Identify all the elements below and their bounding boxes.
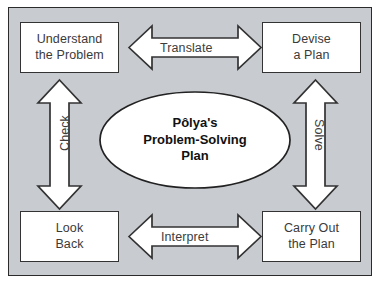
connector-label-check: Check	[58, 115, 72, 151]
node-devise-line-2: a Plan	[292, 48, 331, 63]
node-look-back[interactable]: Look Back	[20, 211, 119, 262]
node-look-back-line-2: Back	[55, 237, 83, 252]
node-carry-out-line-1: Carry Out	[284, 221, 339, 236]
node-devise-a-plan[interactable]: Devise a Plan	[262, 22, 361, 73]
node-carry-out-line-2: the Plan	[284, 237, 339, 252]
node-carry-out-the-plan[interactable]: Carry Out the Plan	[262, 211, 361, 262]
node-understand-line-1: Understand	[35, 32, 104, 47]
node-look-back-line-1: Look	[55, 221, 83, 236]
diagram-root: Pôlya's Problem-Solving Plan Understand …	[0, 0, 381, 284]
center-ellipse	[100, 92, 290, 188]
node-devise-line-1: Devise	[292, 32, 331, 47]
connector-label-translate: Translate	[160, 41, 213, 55]
node-understand-line-2: the Problem	[35, 48, 104, 63]
connector-label-interpret: Interpret	[161, 230, 208, 244]
node-understand-the-problem[interactable]: Understand the Problem	[20, 22, 119, 73]
connector-label-solve: Solve	[312, 119, 326, 151]
